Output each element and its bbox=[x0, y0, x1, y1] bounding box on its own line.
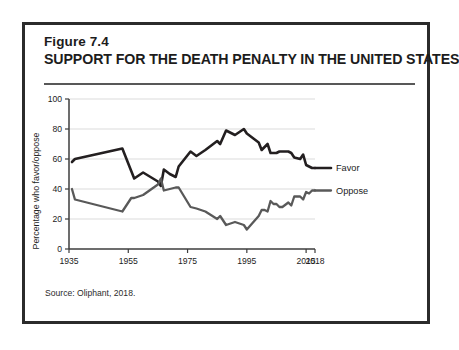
svg-text:1975: 1975 bbox=[178, 256, 197, 266]
svg-text:80: 80 bbox=[52, 124, 62, 134]
series-line-oppose bbox=[72, 179, 315, 230]
svg-text:1955: 1955 bbox=[119, 256, 138, 266]
svg-text:0: 0 bbox=[57, 244, 62, 254]
svg-text:2018: 2018 bbox=[305, 256, 324, 266]
chart-series bbox=[72, 129, 315, 230]
line-chart: 020406080100 193519551975199520152018 Fa… bbox=[25, 91, 427, 281]
chart-legend: FavorOppose bbox=[315, 163, 368, 196]
source-note: Source: Oliphant, 2018. bbox=[45, 288, 135, 298]
figure-card: Figure 7.4 SUPPORT FOR THE DEATH PENALTY… bbox=[22, 22, 430, 324]
chart-axes bbox=[69, 99, 315, 249]
svg-text:1995: 1995 bbox=[237, 256, 256, 266]
svg-text:60: 60 bbox=[52, 154, 62, 164]
y-axis-ticks: 020406080100 bbox=[48, 94, 69, 254]
series-line-favor bbox=[72, 129, 315, 186]
chart-svg: 020406080100 193519551975199520152018 Fa… bbox=[25, 91, 427, 281]
y-axis-label: Percentage who favor/oppose bbox=[31, 132, 41, 249]
legend-label-favor: Favor bbox=[336, 163, 360, 173]
x-axis-ticks: 193519551975199520152018 bbox=[59, 249, 324, 266]
figure-number: Figure 7.4 bbox=[44, 34, 109, 49]
svg-text:100: 100 bbox=[48, 94, 63, 104]
legend-label-oppose: Oppose bbox=[336, 186, 368, 196]
page-title: SUPPORT FOR THE DEATH PENALTY IN THE UNI… bbox=[44, 51, 459, 67]
svg-text:20: 20 bbox=[52, 214, 62, 224]
svg-text:1935: 1935 bbox=[59, 256, 78, 266]
svg-text:40: 40 bbox=[52, 184, 62, 194]
gridlines bbox=[69, 99, 315, 219]
title-divider bbox=[44, 83, 415, 85]
